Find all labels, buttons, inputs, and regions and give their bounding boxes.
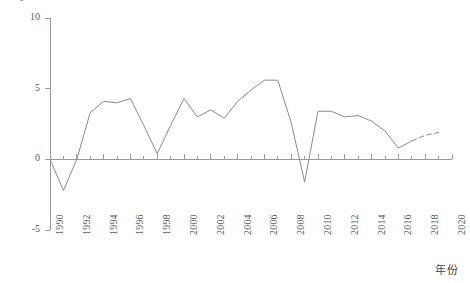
x-tick-label-2016: 2016 [402, 214, 413, 235]
x-tick-label-2008: 2008 [295, 214, 306, 235]
x-tick-label-2002: 2002 [215, 214, 226, 235]
x-tick-label-2010: 2010 [322, 214, 333, 235]
x-tick-label-1996: 1996 [134, 214, 145, 235]
series-group [50, 80, 439, 190]
data-line-forecast [412, 132, 439, 140]
plot-area [0, 0, 470, 283]
x-tick-label-1990: 1990 [54, 214, 65, 235]
x-axis-title: 年份 [435, 261, 458, 277]
x-tick-label-2000: 2000 [188, 214, 199, 235]
x-tick-label-2006: 2006 [268, 214, 279, 235]
x-tick-label-2012: 2012 [349, 214, 360, 235]
y-tick-label--5: -5 [16, 223, 40, 234]
gdp-growth-line-chart: GDP 增速/% 1050-5 199019921994199619982000… [0, 0, 470, 283]
axes-group [45, 18, 452, 230]
x-tick-label-2018: 2018 [429, 214, 440, 235]
x-tick-label-2004: 2004 [242, 214, 253, 235]
x-tick-label-1994: 1994 [108, 214, 119, 235]
x-tick-label-1998: 1998 [161, 214, 172, 235]
y-tick-label-5: 5 [16, 82, 40, 93]
x-tick-label-2020: 2020 [456, 214, 467, 235]
data-line-actual [50, 80, 412, 190]
y-tick-label-10: 10 [16, 11, 40, 22]
y-tick-label-0: 0 [16, 152, 40, 163]
x-tick-label-2014: 2014 [376, 214, 387, 235]
x-tick-label-1992: 1992 [81, 214, 92, 235]
